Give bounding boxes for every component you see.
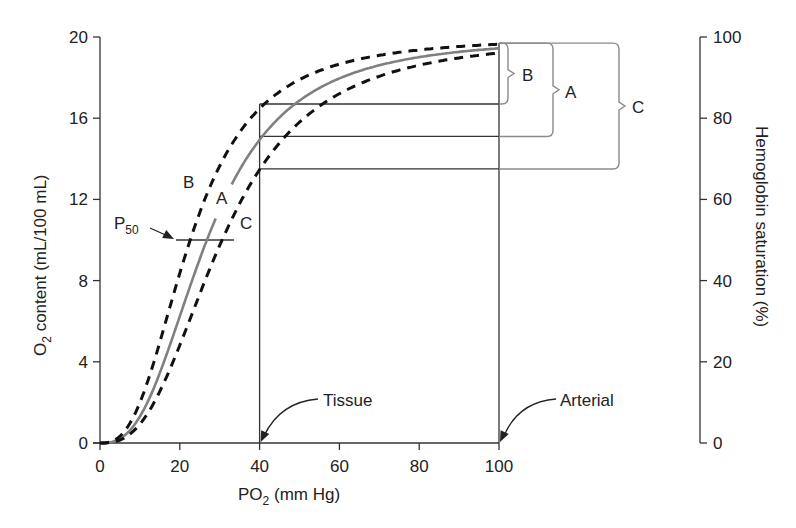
- x-tick-label: 40: [250, 457, 269, 476]
- y2-tick-label: 20: [713, 353, 732, 372]
- y2-tick-label: 60: [713, 190, 732, 209]
- bracket-label-a: A: [565, 83, 577, 102]
- tissue-arrow-head: [261, 430, 270, 442]
- y-tick-label: 16: [69, 109, 88, 128]
- y-tick-label: 20: [69, 28, 88, 47]
- y-tick-label: 8: [79, 272, 88, 291]
- p50-label-main: P: [114, 214, 125, 233]
- x-tick-label: 0: [95, 457, 104, 476]
- curve-a-upper: [232, 48, 499, 184]
- arterial-arrow-head: [500, 430, 509, 442]
- y2-axis-title: Hemoglobin saturation (%): [752, 126, 771, 327]
- axes: 048121620020406080100020406080100: [69, 28, 741, 476]
- p50-label: P50: [114, 214, 139, 237]
- bracket-label-c: C: [632, 98, 644, 117]
- y-axis-title: O2 content (mL/100 mL): [31, 175, 54, 357]
- tissue-label: Tissue: [323, 391, 372, 410]
- y-tick-label: 12: [69, 190, 88, 209]
- x-tick-label: 100: [485, 457, 513, 476]
- curve-a-lower: [100, 219, 216, 444]
- bracket-b: [499, 43, 514, 104]
- y2-tick-label: 100: [713, 28, 741, 47]
- y2-tick-label: 80: [713, 109, 732, 128]
- y-tick-label: 0: [79, 434, 88, 453]
- oxygen-dissociation-chart: 048121620020406080100020406080100 B A C …: [0, 0, 796, 528]
- tissue-arrow: [264, 399, 318, 436]
- y2-tick-label: 40: [713, 272, 732, 291]
- difference-brackets: [499, 43, 625, 169]
- curve-label-b: B: [183, 173, 194, 192]
- curve-label-c: C: [240, 214, 252, 233]
- x-tick-label: 60: [330, 457, 349, 476]
- bracket-label-b: B: [522, 66, 533, 85]
- arterial-arrow: [504, 399, 556, 436]
- x-tick-label: 20: [170, 457, 189, 476]
- arterial-label: Arterial: [560, 391, 614, 410]
- curve-c: [100, 53, 499, 443]
- x-tick-label: 80: [410, 457, 429, 476]
- reference-lines: [176, 43, 499, 443]
- y2-tick-label: 0: [713, 434, 722, 453]
- annotations: B A C P50 B A C Tissue Arterial PO2 (mm …: [31, 66, 771, 508]
- curve-label-a: A: [216, 189, 228, 208]
- y-tick-label: 4: [79, 353, 88, 372]
- x-axis-title: PO2 (mm Hg): [238, 485, 340, 508]
- bracket-c: [499, 43, 625, 169]
- p50-label-sub: 50: [125, 223, 139, 237]
